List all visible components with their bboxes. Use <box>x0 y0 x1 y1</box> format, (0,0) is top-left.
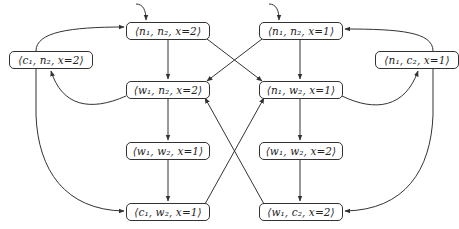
state-w1-w2-x2: ⟨w₁, w₂, x=2⟩ <box>259 142 343 160</box>
state-label: ⟨w₁, n₂, x=2⟩ <box>134 84 202 96</box>
state-label: ⟨w₁, c₂, x=2⟩ <box>267 206 335 218</box>
state-n1-c2-x1: ⟨n₁, c₂, x=1⟩ <box>375 51 459 69</box>
state-diagram: ⟨n₁, n₂, x=2⟩ ⟨n₁, n₂, x=1⟩ ⟨c₁, n₂, x=2… <box>0 0 459 229</box>
edges-layer <box>0 0 459 229</box>
state-n1-n2-x2: ⟨n₁, n₂, x=2⟩ <box>126 22 210 40</box>
state-w1-c2-x2: ⟨w₁, c₂, x=2⟩ <box>259 203 343 221</box>
state-label: ⟨n₁, c₂, x=1⟩ <box>384 54 449 66</box>
state-n1-n2-x1: ⟨n₁, n₂, x=1⟩ <box>259 22 343 40</box>
state-n1-w2-x1: ⟨n₁, w₂, x=1⟩ <box>259 81 343 99</box>
edge-n1c2x1-w1c2x2 <box>345 69 433 211</box>
state-label: ⟨w₁, w₂, x=1⟩ <box>133 145 204 157</box>
edge-n1w2x1-n1c2x1 <box>342 71 418 105</box>
edge-w1n2x2-c1n2x2 <box>51 71 126 104</box>
edge-n1c2x1-n1n2x1 <box>345 29 433 51</box>
edge-c1n2x2-n1n2x2 <box>36 27 124 51</box>
state-label: ⟨n₁, n₂, x=2⟩ <box>135 25 201 37</box>
state-c1-w2-x1: ⟨c₁, w₂, x=1⟩ <box>126 203 210 221</box>
state-w1-w2-x1: ⟨w₁, w₂, x=1⟩ <box>126 142 210 160</box>
initial-arrow-n1n2x1 <box>269 4 279 20</box>
initial-arrow-n1n2x2 <box>136 4 146 20</box>
state-c1-n2-x2: ⟨c₁, n₂, x=2⟩ <box>9 51 93 69</box>
edge-c1n2x2-c1w2x1 <box>36 69 124 211</box>
state-label: ⟨c₁, w₂, x=1⟩ <box>134 206 202 218</box>
state-w1-n2-x2: ⟨w₁, n₂, x=2⟩ <box>126 81 210 99</box>
state-label: ⟨w₁, w₂, x=2⟩ <box>266 145 337 157</box>
state-label: ⟨c₁, n₂, x=2⟩ <box>18 54 83 66</box>
state-label: ⟨n₁, w₂, x=1⟩ <box>267 84 335 96</box>
state-label: ⟨n₁, n₂, x=1⟩ <box>268 25 334 37</box>
